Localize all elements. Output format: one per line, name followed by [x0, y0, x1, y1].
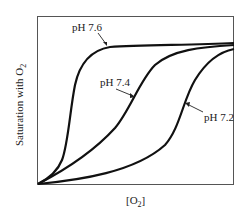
oxygen-saturation-chart: pH 7.6 pH 7.4 pH 7.2 [O2] Saturation wit…: [0, 0, 245, 216]
label-ph-7-4: pH 7.4: [100, 76, 130, 88]
x-axis-label: [O2]: [126, 194, 145, 209]
arrow-ph-7-6: [98, 33, 107, 46]
arrow-ph-7-4: [116, 89, 135, 98]
label-ph-7-6: pH 7.6: [72, 21, 102, 33]
arrow-ph-7-2: [185, 102, 203, 112]
label-ph-7-2: pH 7.2: [204, 111, 234, 123]
plot-frame: [38, 17, 234, 185]
y-axis-label: Saturation with O2: [13, 64, 28, 146]
